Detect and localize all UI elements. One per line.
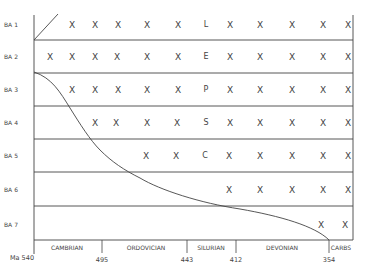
- presence-mark: X: [226, 186, 232, 195]
- presence-mark: X: [257, 186, 263, 195]
- presence-mark: X: [289, 119, 295, 128]
- presence-mark: X: [69, 53, 75, 62]
- presence-mark: X: [320, 86, 326, 95]
- presence-mark: X: [289, 21, 295, 30]
- presence-mark: X: [92, 21, 98, 30]
- age-tick-label: 443: [181, 256, 193, 264]
- diagram-lines: [0, 0, 366, 278]
- row-label: BA 1: [4, 21, 30, 28]
- presence-mark: X: [92, 119, 98, 128]
- presence-mark: X: [144, 53, 150, 62]
- row-label: BA 4: [4, 119, 30, 126]
- presence-mark: X: [345, 86, 351, 95]
- presence-mark: X: [226, 152, 232, 161]
- upper-boundary-curve: [34, 14, 58, 40]
- presence-mark: X: [227, 119, 233, 128]
- period-letter: P: [204, 86, 209, 94]
- presence-mark: X: [318, 221, 324, 230]
- presence-mark: X: [289, 53, 295, 62]
- period-letter: L: [204, 21, 208, 29]
- period-label: DEVONIAN: [266, 244, 298, 251]
- presence-mark: X: [227, 86, 233, 95]
- presence-mark: X: [289, 186, 295, 195]
- presence-mark: X: [143, 152, 149, 161]
- presence-mark: X: [144, 21, 150, 30]
- presence-mark: X: [345, 21, 351, 30]
- presence-mark: X: [92, 53, 98, 62]
- row-dividers: [34, 40, 353, 240]
- presence-mark: X: [227, 21, 233, 30]
- presence-mark: X: [175, 86, 181, 95]
- presence-mark: X: [257, 53, 263, 62]
- presence-mark: X: [175, 53, 181, 62]
- period-label: CAMBRIAN: [51, 244, 83, 251]
- presence-mark: X: [257, 119, 263, 128]
- presence-mark: X: [320, 186, 326, 195]
- presence-mark: X: [92, 86, 98, 95]
- presence-mark: X: [47, 53, 53, 62]
- presence-mark: X: [345, 119, 351, 128]
- presence-mark: X: [345, 152, 351, 161]
- presence-mark: X: [320, 152, 326, 161]
- presence-mark: X: [257, 21, 263, 30]
- presence-mark: X: [289, 86, 295, 95]
- presence-mark: X: [320, 53, 326, 62]
- presence-mark: X: [115, 21, 121, 30]
- presence-mark: X: [345, 53, 351, 62]
- row-label: BA 3: [4, 86, 30, 93]
- presence-mark: X: [144, 119, 150, 128]
- lower-boundary-curve: [34, 72, 329, 240]
- age-tick-label: Ma 540: [10, 254, 34, 262]
- period-label: ORDOVICIAN: [127, 244, 166, 251]
- row-label: BA 2: [4, 53, 30, 60]
- presence-mark: X: [114, 53, 120, 62]
- age-tick-label: 354: [323, 256, 335, 264]
- presence-mark: X: [289, 152, 295, 161]
- age-tick-label: 495: [96, 256, 108, 264]
- presence-mark: X: [175, 21, 181, 30]
- presence-mark: X: [173, 152, 179, 161]
- period-letter: E: [203, 53, 208, 61]
- presence-mark: X: [144, 86, 150, 95]
- age-tick-label: 412: [230, 256, 242, 264]
- presence-mark: X: [257, 152, 263, 161]
- presence-mark: X: [174, 119, 180, 128]
- presence-mark: X: [227, 53, 233, 62]
- row-label: BA 5: [4, 152, 30, 159]
- period-letter: S: [203, 119, 208, 127]
- presence-mark: X: [257, 86, 263, 95]
- presence-mark: X: [320, 119, 326, 128]
- row-label: BA 7: [4, 221, 30, 228]
- presence-mark: X: [69, 86, 75, 95]
- period-label: SILURIAN: [197, 244, 225, 251]
- period-letter: C: [202, 152, 208, 160]
- presence-mark: X: [342, 221, 348, 230]
- presence-mark: X: [69, 21, 75, 30]
- row-label: BA 6: [4, 186, 30, 193]
- period-label: CARBS: [331, 244, 351, 251]
- presence-mark: X: [345, 186, 351, 195]
- presence-mark: X: [113, 119, 119, 128]
- presence-mark: X: [320, 21, 326, 30]
- presence-mark: X: [115, 86, 121, 95]
